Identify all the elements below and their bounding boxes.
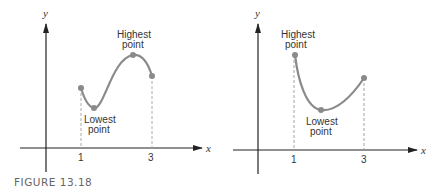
right-tick-1: 1: [291, 154, 297, 165]
left-highest-dot: [130, 52, 136, 58]
figure-canvas: y x 1 3 Highest point Lowest point y x 1…: [0, 0, 443, 196]
right-graph: y x 1 3 Highest point Lowest point: [233, 7, 426, 174]
left-lowest-label-2: point: [88, 124, 110, 135]
right-highest-dot: [292, 52, 298, 58]
right-tick-3: 3: [361, 154, 367, 165]
right-y-axis-label: y: [254, 7, 260, 19]
right-end-dot: [361, 75, 367, 81]
left-graph: y x 1 3 Highest point Lowest point: [20, 7, 211, 172]
right-lowest-dot: [318, 107, 324, 113]
right-x-axis-label: x: [420, 144, 426, 156]
left-lowest-dot: [91, 105, 97, 111]
left-tick-3: 3: [148, 152, 154, 163]
left-curve: [81, 55, 152, 108]
left-y-axis-label: y: [42, 7, 48, 19]
figure-caption: FIGURE 13.18: [14, 176, 92, 188]
right-highest-label-2: point: [285, 39, 307, 50]
right-endpoint-dot: [149, 73, 155, 79]
left-highest-label-2: point: [122, 39, 144, 50]
right-lowest-label-2: point: [310, 126, 332, 137]
left-tick-1: 1: [78, 152, 84, 163]
left-x-axis-label: x: [205, 142, 211, 154]
left-endpoint-dot: [78, 85, 84, 91]
right-curve: [295, 55, 364, 110]
